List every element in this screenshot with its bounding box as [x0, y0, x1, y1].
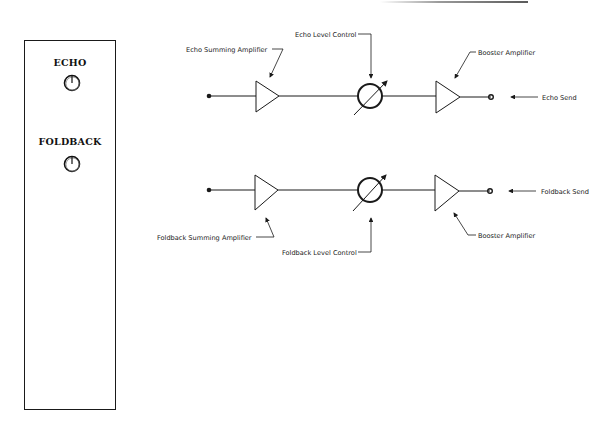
- echo-summing-amplifier-label: Echo Summing Amplifier: [186, 46, 268, 54]
- echo-send-label: Echo Send: [542, 94, 577, 102]
- foldback-level-control-icon: [358, 178, 382, 202]
- foldback-chain: Foldback Summing Amplifier Foldback Leve…: [157, 175, 589, 257]
- foldback-booster-amplifier-icon: [435, 175, 459, 211]
- echo-summing-amplifier-icon: [256, 81, 279, 112]
- foldback-booster-amplifier-label: Booster Amplifier: [478, 232, 535, 240]
- foldback-send-label: Foldback Send: [541, 188, 589, 196]
- foldback-summing-amplifier-label: Foldback Summing Amplifier: [157, 234, 252, 242]
- foldback-level-control-label: Foldback Level Control: [282, 249, 357, 257]
- echo-level-control-label: Echo Level Control: [295, 31, 357, 39]
- foldback-summing-amplifier-icon: [255, 175, 278, 210]
- echo-booster-amplifier-icon: [436, 81, 460, 113]
- echo-booster-amplifier-label: Booster Amplifier: [478, 49, 535, 57]
- signal-flow-diagram: Echo Summing Amplifier Echo Level Contro…: [0, 0, 608, 437]
- echo-chain: Echo Summing Amplifier Echo Level Contro…: [186, 31, 577, 115]
- echo-level-control-icon: [358, 84, 382, 108]
